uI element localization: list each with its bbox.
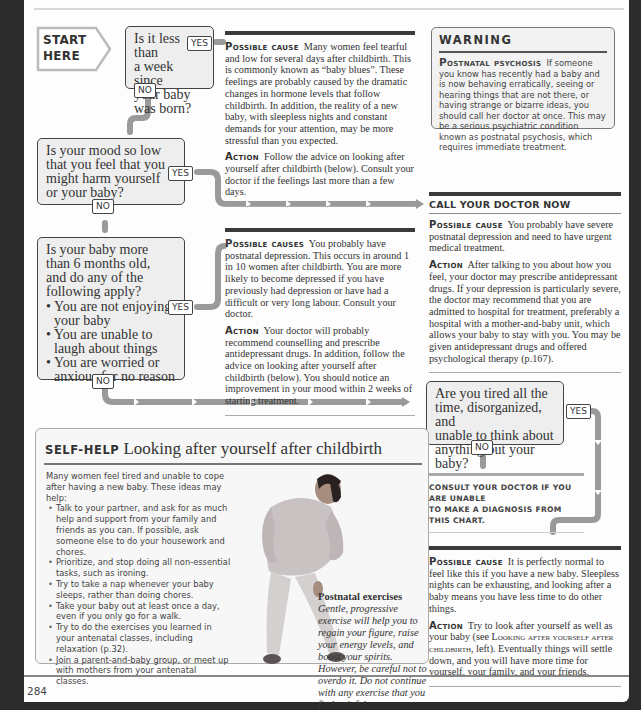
yes-tag-q3: YES bbox=[168, 300, 193, 315]
possible-causes-label: Possible causes bbox=[225, 238, 304, 249]
self-help-title: SELF-HELPLooking after yourself after ch… bbox=[45, 439, 382, 459]
warning-title: WARNING bbox=[439, 33, 607, 47]
self-help-rule bbox=[44, 463, 422, 465]
outcome-call-doctor: CALL YOUR DOCTOR NOW Possible cause You … bbox=[429, 192, 621, 373]
list-item: Prioritize, and stop doing all non-essen… bbox=[46, 557, 231, 579]
warning-label: Postnatal psychosis bbox=[439, 56, 541, 68]
outcome-rule bbox=[225, 228, 415, 232]
no-tag-q4: NO bbox=[471, 440, 493, 455]
warning-rule bbox=[439, 51, 607, 53]
outcome-tiredness: Possible cause It is perfectly normal to… bbox=[429, 546, 621, 687]
consult-top-rule bbox=[429, 473, 584, 476]
possible-cause-label: Possible cause bbox=[429, 556, 503, 567]
list-item: Try to take a nap whenever your baby sle… bbox=[46, 579, 231, 601]
warning-box: WARNING Postnatal psychosis If someone y… bbox=[431, 27, 615, 129]
outcome-baby-blues: Possible cause Many women feel tearful a… bbox=[225, 31, 415, 207]
action-label: Action bbox=[429, 259, 463, 270]
outcome-rule bbox=[429, 546, 621, 550]
yes-tag-q4: YES bbox=[566, 404, 591, 419]
outcome-bottom-rule bbox=[429, 686, 621, 687]
self-help-list: Many women feel tired and unable to cope… bbox=[46, 471, 231, 687]
page-bezel-right bbox=[629, 0, 641, 710]
outcome-bottom-rule bbox=[225, 415, 415, 416]
question-box-q2: Is your mood so low that you feel that y… bbox=[37, 138, 185, 205]
no-tag-q1: NO bbox=[134, 83, 156, 98]
no-tag-q3: NO bbox=[92, 374, 114, 389]
caption-body: Gentle, progressive exercise will help y… bbox=[318, 603, 428, 710]
photo-caption: Postnatal exercises Gentle, progressive … bbox=[318, 591, 428, 710]
self-help-tag: SELF-HELP bbox=[45, 443, 119, 457]
question-box-q4: Are you tired all the time, disorganized… bbox=[426, 381, 564, 445]
caption-title: Postnatal exercises bbox=[318, 591, 428, 603]
q3-bullet-2: •You are unable tolaugh about things bbox=[46, 328, 176, 356]
no-tag-q2: NO bbox=[92, 199, 114, 214]
document-page: START HERE bbox=[24, 0, 629, 702]
list-item: Join a parent-and-baby group, or meet up… bbox=[46, 655, 231, 687]
list-item: Talk to your partner, and ask for as muc… bbox=[46, 503, 231, 557]
outcome-bottom-rule bbox=[429, 372, 621, 373]
possible-cause-label: Possible cause bbox=[429, 219, 503, 230]
list-item: Take your baby out at least once a day, … bbox=[46, 601, 231, 623]
outcome-bottom-rule bbox=[225, 206, 415, 207]
call-doctor-heading: CALL YOUR DOCTOR NOW bbox=[429, 199, 621, 210]
question-box-q3: Is your baby more than 6 months old, and… bbox=[37, 237, 185, 380]
self-help-box: SELF-HELPLooking after yourself after ch… bbox=[35, 428, 429, 664]
action-label: Action bbox=[225, 325, 259, 336]
outcome-rule bbox=[429, 192, 621, 196]
yes-tag-q2: YES bbox=[168, 166, 193, 181]
consult-bottom-rule bbox=[429, 532, 584, 533]
outcome-rule bbox=[225, 31, 415, 35]
action-label: Action bbox=[429, 620, 463, 631]
outcome-postnatal-depression: Possible causes You probably have postna… bbox=[225, 228, 415, 416]
footer-rule bbox=[24, 675, 629, 677]
possible-cause-label: Possible cause bbox=[225, 41, 299, 52]
page-number: 284 bbox=[27, 685, 47, 697]
action-label: Action bbox=[225, 151, 259, 162]
yes-tag-q1: YES bbox=[187, 36, 212, 51]
page-bezel-left bbox=[0, 0, 24, 710]
consult-doctor-note: Consult your doctor if you are unable to… bbox=[429, 473, 584, 533]
list-item: Try to do the exercises you learned in y… bbox=[46, 622, 231, 654]
heading-rule bbox=[429, 213, 621, 214]
q3-bullet-1: •You are not enjoyingyour baby bbox=[46, 300, 176, 328]
